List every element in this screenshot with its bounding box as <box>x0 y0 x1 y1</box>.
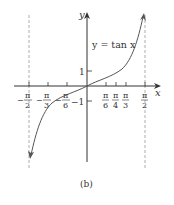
svg-text:π: π <box>25 91 30 100</box>
svg-text:π: π <box>63 91 68 100</box>
svg-text:2: 2 <box>142 101 147 110</box>
svg-text:6: 6 <box>103 101 108 110</box>
svg-text:−: − <box>36 96 43 105</box>
y-axis-label: y <box>78 9 85 20</box>
y-tick-label-neg1: −1 <box>71 97 84 107</box>
svg-text:π: π <box>103 91 108 100</box>
svg-text:3: 3 <box>123 101 128 110</box>
svg-text:2: 2 <box>25 101 30 110</box>
svg-text:4: 4 <box>113 101 118 110</box>
svg-text:−: − <box>55 96 62 105</box>
x-axis-label: x <box>155 87 161 98</box>
function-label: y = tan x <box>91 39 136 50</box>
y-tick-label-1: 1 <box>79 67 85 77</box>
svg-text:3: 3 <box>44 101 49 110</box>
svg-text:6: 6 <box>63 101 68 110</box>
figure-caption: (b) <box>80 179 93 189</box>
svg-text:π: π <box>123 91 128 100</box>
tan-graph: y x y = tan x 1 −1 − π 2 − π 3 − π 6 π 6… <box>0 0 174 205</box>
svg-text:−: − <box>17 96 24 105</box>
svg-text:π: π <box>113 91 118 100</box>
svg-text:π: π <box>142 91 147 100</box>
svg-text:π: π <box>44 91 49 100</box>
